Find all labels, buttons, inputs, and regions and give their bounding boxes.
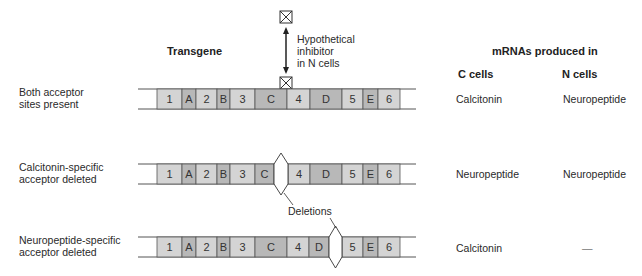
exon-box: 2 [196,164,217,184]
exon-box: 6 [378,89,400,109]
exon-box: D [310,89,342,109]
exon-box: 1 [157,237,182,257]
exon-box: 3 [230,164,255,184]
exon-box: 2 [196,237,217,257]
exon-box: C [255,89,287,109]
exon-box: B [217,164,230,184]
svg-text:D: D [322,168,330,180]
svg-text:6: 6 [386,241,392,253]
svg-text:E: E [367,241,374,253]
exon-box: 3 [230,89,255,109]
svg-text:6: 6 [386,168,392,180]
exon-box: 5 [342,237,363,257]
exon-box: 4 [287,89,310,109]
exon-box: 1 [157,164,182,184]
exon-box: 4 [287,237,309,257]
exon-box: 1 [157,89,182,109]
svg-text:4: 4 [295,93,301,105]
svg-text:5: 5 [349,168,355,180]
svg-text:3: 3 [239,241,245,253]
svg-text:3: 3 [239,93,245,105]
exon-box: 3 [230,237,255,257]
transgene-diagram: 1A2B3C4D5E61A2B3C4D5E61A2B3C4D5E6 [0,0,642,276]
exon-box: A [182,237,196,257]
gene-row: 1A2B3C4D5E6 [138,89,416,109]
svg-text:1: 1 [166,241,172,253]
exon-box: A [182,164,196,184]
exon-box: E [363,164,378,184]
exon-box: A [182,89,196,109]
double-arrow-icon [283,27,289,74]
svg-text:2: 2 [203,168,209,180]
gene-row: 1A2B3C4D5E6 [138,153,416,195]
exon-box: 5 [342,164,363,184]
svg-text:4: 4 [295,241,301,253]
svg-text:1: 1 [166,168,172,180]
svg-text:D: D [322,93,330,105]
svg-text:5: 5 [349,241,355,253]
svg-text:2: 2 [203,93,209,105]
exon-box: B [217,89,230,109]
exon-box: E [363,89,378,109]
deletion-gap [329,226,342,268]
inhibitor-bottom-icon [280,77,292,89]
svg-text:C: C [267,241,275,253]
exon-box: D [309,237,329,257]
svg-text:D: D [315,241,323,253]
svg-text:A: A [185,93,193,105]
deletions-label: Deletions [288,205,332,217]
gene-row: 1A2B3C4D5E6 [138,226,416,268]
svg-text:E: E [367,93,374,105]
deletion-gap [274,153,288,195]
exon-box: C [255,237,287,257]
inhibitor-top-icon [280,11,292,23]
exon-box: D [310,164,342,184]
svg-text:5: 5 [349,93,355,105]
exon-box: C [255,164,274,184]
svg-text:6: 6 [386,93,392,105]
exon-box: 4 [288,164,310,184]
exon-box: 2 [196,89,217,109]
exon-box: 6 [378,237,400,257]
svg-text:C: C [261,168,269,180]
svg-text:3: 3 [239,168,245,180]
svg-text:B: B [220,241,227,253]
svg-text:C: C [267,93,275,105]
svg-text:E: E [367,168,374,180]
svg-text:4: 4 [296,168,302,180]
exon-box: 5 [342,89,363,109]
exon-box: E [363,237,378,257]
svg-text:A: A [185,168,193,180]
exon-box: B [217,237,230,257]
svg-text:B: B [220,93,227,105]
svg-text:1: 1 [166,93,172,105]
exon-box: 6 [378,164,400,184]
svg-text:B: B [220,168,227,180]
svg-text:A: A [185,241,193,253]
svg-text:2: 2 [203,241,209,253]
